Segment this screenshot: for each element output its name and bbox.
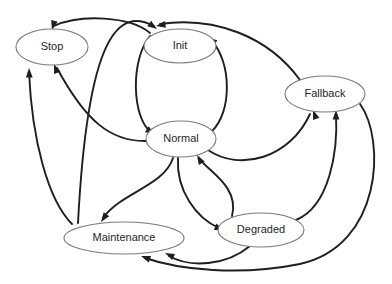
state-diagram-canvas: StopInitFallbackNormalMaintenanceDegrade… xyxy=(0,0,392,284)
edge-degraded-to-maintenance xyxy=(164,246,250,263)
edge-maintenance-to-stop xyxy=(26,68,72,224)
state-node-fallback[interactable]: Fallback xyxy=(285,76,365,112)
edge-path xyxy=(211,40,227,131)
edge-path xyxy=(199,158,233,216)
state-node-label: Init xyxy=(173,39,188,51)
edge-normal-to-fallback xyxy=(208,109,319,160)
edge-path xyxy=(178,158,219,228)
state-diagram-svg: StopInitFallbackNormalMaintenanceDegrade… xyxy=(0,0,392,284)
arrowhead-icon xyxy=(26,68,33,78)
state-node-init[interactable]: Init xyxy=(144,29,216,63)
edge-normal-to-maintenance xyxy=(98,158,173,224)
state-node-label: Degraded xyxy=(237,223,285,235)
edge-path xyxy=(296,114,336,220)
edge-path xyxy=(57,68,147,141)
edge-path xyxy=(29,72,72,224)
edge-path xyxy=(169,246,250,263)
edge-normal-to-stop xyxy=(51,63,147,141)
state-node-maintenance[interactable]: Maintenance xyxy=(64,222,184,254)
state-node-normal[interactable]: Normal xyxy=(146,121,216,157)
state-node-label: Fallback xyxy=(305,87,346,99)
edge-path xyxy=(208,114,310,160)
arrowhead-icon xyxy=(147,21,159,32)
state-node-label: Normal xyxy=(163,132,198,144)
edge-path xyxy=(103,158,173,218)
state-node-label: Stop xyxy=(41,40,64,52)
edge-normal-to-degraded xyxy=(178,158,225,233)
edge-degraded-to-normal xyxy=(194,153,233,216)
state-node-degraded[interactable]: Degraded xyxy=(218,213,304,247)
arrowhead-icon xyxy=(155,21,166,29)
arrowhead-icon xyxy=(140,253,151,263)
state-node-stop[interactable]: Stop xyxy=(16,29,88,65)
state-node-label: Maintenance xyxy=(93,231,156,243)
